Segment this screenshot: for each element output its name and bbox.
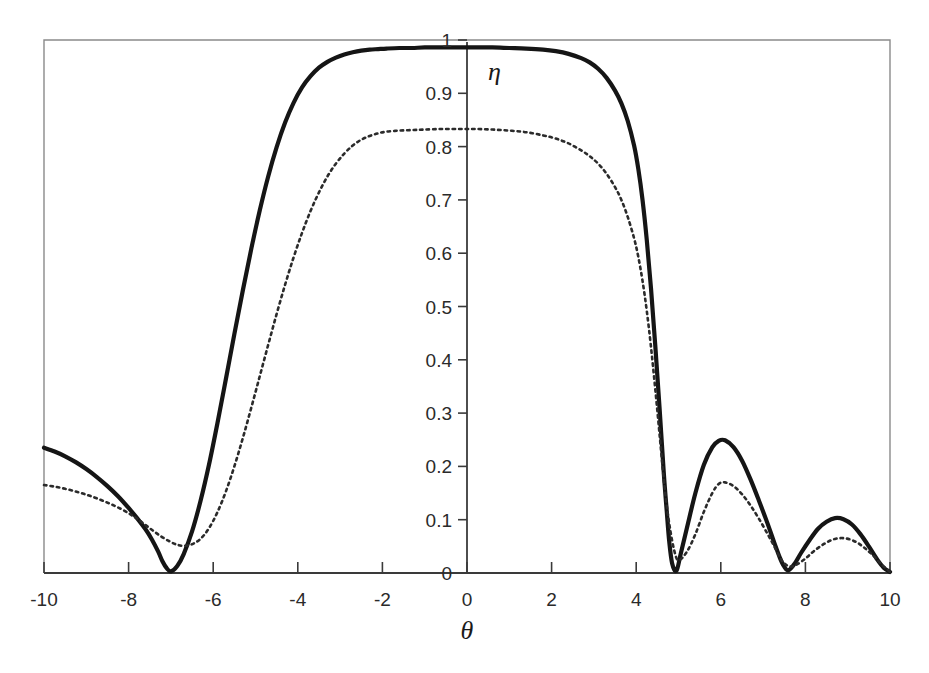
y-tick-label: 0.2 — [426, 456, 452, 477]
x-tick-labels: -10-8-6-4-20246810 — [30, 589, 900, 610]
y-tick-label: 0.9 — [426, 83, 452, 104]
y-tick-label: 0.5 — [426, 297, 452, 318]
x-tick-label: 2 — [546, 589, 557, 610]
y-axis-title: η — [488, 57, 501, 86]
x-tick-label: -10 — [30, 589, 57, 610]
x-tick-label: -6 — [205, 589, 222, 610]
x-tick-label: -2 — [374, 589, 391, 610]
y-tick-label: 0.4 — [426, 350, 453, 371]
y-tick-label: 0.1 — [426, 510, 452, 531]
figure-container: -10-8-6-4-20246810 00.10.20.30.40.50.60.… — [0, 0, 929, 673]
y-tick-label: 0 — [441, 563, 452, 584]
x-tick-label: -8 — [120, 589, 137, 610]
x-tick-label: -4 — [289, 589, 306, 610]
y-tick-label: 0.6 — [426, 243, 452, 264]
chart-plot: -10-8-6-4-20246810 00.10.20.30.40.50.60.… — [0, 0, 929, 673]
y-tick-label: 0.7 — [426, 190, 452, 211]
y-tick-label: 1 — [441, 30, 452, 51]
y-tick-label: 0.8 — [426, 137, 452, 158]
y-tick-labels: 00.10.20.30.40.50.60.70.80.91 — [426, 30, 453, 584]
y-tick-label: 0.3 — [426, 403, 452, 424]
y-axis — [458, 40, 467, 573]
x-axis-title: θ — [461, 616, 474, 645]
x-tick-label: 8 — [800, 589, 811, 610]
x-tick-label: 10 — [879, 589, 900, 610]
x-tick-label: 0 — [462, 589, 473, 610]
x-tick-label: 6 — [716, 589, 727, 610]
x-tick-label: 4 — [631, 589, 642, 610]
